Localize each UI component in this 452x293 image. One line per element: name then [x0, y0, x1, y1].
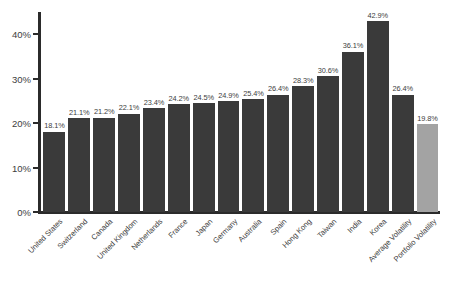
- bar-value-label: 24.9%: [218, 91, 238, 100]
- bar-group: 36.1%: [342, 12, 364, 212]
- y-axis-tick-label: 10%: [0, 162, 31, 173]
- y-axis-tick: [33, 167, 39, 169]
- y-axis-tick-label: 20%: [0, 118, 31, 129]
- bar-value-label: 26.4%: [392, 84, 412, 93]
- bar: [68, 118, 90, 212]
- bar: [193, 103, 215, 212]
- bar-group: 24.9%: [218, 12, 240, 212]
- bar-value-label: 25.4%: [243, 89, 263, 98]
- bar-chart: 0%10%20%30%40% 18.1%21.1%21.2%22.1%23.4%…: [0, 0, 452, 293]
- bar: [43, 132, 65, 212]
- y-axis-tick-label: 40%: [0, 29, 31, 40]
- bar-value-label: 24.2%: [169, 94, 189, 103]
- bar: [242, 99, 264, 212]
- bar-group: 19.8%: [417, 12, 439, 212]
- x-axis-category-label: Australia: [237, 217, 264, 244]
- x-axis-category-label: Japan: [193, 217, 214, 238]
- bar: [367, 21, 389, 212]
- bar-value-label: 22.1%: [119, 103, 139, 112]
- bar: [417, 124, 439, 212]
- bar-group: 26.4%: [267, 12, 289, 212]
- bar-group: 30.6%: [317, 12, 339, 212]
- bar: [392, 95, 414, 212]
- bar-value-label: 28.3%: [293, 76, 313, 85]
- y-axis-tick-label: 30%: [0, 73, 31, 84]
- bar: [292, 86, 314, 212]
- bar-group: 23.4%: [143, 12, 165, 212]
- bar-value-label: 30.6%: [318, 66, 338, 75]
- y-axis-tick: [33, 78, 39, 80]
- bar-value-label: 19.8%: [417, 114, 437, 123]
- bar-value-label: 21.1%: [69, 108, 89, 117]
- bar-value-label: 42.9%: [368, 11, 388, 20]
- bar-group: 21.1%: [68, 12, 90, 212]
- bar-group: 42.9%: [367, 12, 389, 212]
- bar-value-label: 18.1%: [44, 121, 64, 130]
- bar-value-label: 36.1%: [343, 41, 363, 50]
- y-axis-line: [38, 12, 41, 212]
- x-axis-category-label: Germany: [211, 217, 239, 245]
- bar: [168, 104, 190, 212]
- bar-value-label: 26.4%: [268, 84, 288, 93]
- x-axis-category-label: Spain: [269, 217, 289, 237]
- bar-group: 21.2%: [93, 12, 115, 212]
- bar-value-label: 24.5%: [193, 93, 213, 102]
- bar-group: 24.2%: [168, 12, 190, 212]
- bar: [267, 95, 289, 212]
- y-axis-tick: [33, 211, 39, 213]
- bar: [342, 52, 364, 212]
- plot-area: 18.1%21.1%21.2%22.1%23.4%24.2%24.5%24.9%…: [42, 12, 440, 212]
- bar: [218, 101, 240, 212]
- y-axis-tick: [33, 122, 39, 124]
- x-axis-category-label: Korea: [368, 217, 389, 238]
- bar: [143, 108, 165, 212]
- bar-value-label: 23.4%: [144, 98, 164, 107]
- x-axis-category-label: India: [345, 217, 363, 235]
- bar-value-label: 21.2%: [94, 107, 114, 116]
- bar: [317, 76, 339, 212]
- bar-group: 18.1%: [43, 12, 65, 212]
- y-axis-tick-label: 0%: [0, 207, 31, 218]
- x-axis-category-label: Taiwan: [316, 217, 339, 240]
- x-axis-category-label: United States: [27, 217, 65, 255]
- bar-group: 28.3%: [292, 12, 314, 212]
- bar-group: 25.4%: [242, 12, 264, 212]
- bar-group: 26.4%: [392, 12, 414, 212]
- bar-group: 24.5%: [193, 12, 215, 212]
- bar: [93, 118, 115, 212]
- bar: [118, 114, 140, 212]
- x-axis-category-label: France: [166, 217, 189, 240]
- bar-group: 22.1%: [118, 12, 140, 212]
- y-axis-tick: [33, 33, 39, 35]
